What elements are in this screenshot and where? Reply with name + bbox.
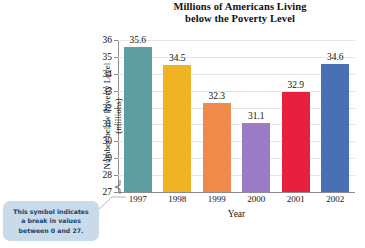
y-axis-title-line-1: Number below Poverty Level (102, 41, 113, 191)
bar-value-label: 32.9 (287, 80, 304, 90)
bar: 32.3 (203, 103, 231, 193)
bar: 35.6 (124, 47, 152, 192)
chart-title-line-1: Millions of Americans Living (118, 1, 362, 13)
gridline (118, 108, 355, 109)
bar-fill (163, 65, 191, 192)
callout-line-3: between 0 and 27. (13, 226, 88, 236)
bar: 34.6 (321, 64, 349, 192)
x-axis-tick-label: 1998 (157, 194, 197, 204)
x-axis-tick-label: 1999 (197, 194, 237, 204)
callout-line-1: This symbol indicates (13, 207, 88, 217)
gridline (118, 40, 355, 41)
gridline (118, 124, 355, 125)
y-axis-title: Number below Poverty Level (millions) (102, 41, 123, 191)
bar: 32.9 (282, 92, 310, 192)
gridline (118, 175, 355, 176)
gridline (118, 141, 355, 142)
bar: 34.5 (163, 65, 191, 192)
x-axis-title: Year (118, 209, 355, 219)
bar-value-label: 35.6 (129, 35, 146, 45)
bar-fill (124, 47, 152, 192)
poverty-level-bar-chart: Millions of Americans Living below the P… (0, 0, 365, 248)
bar-value-label: 34.5 (169, 53, 186, 63)
gridline (118, 91, 355, 92)
gridline (118, 74, 355, 75)
chart-title-line-2: below the Poverty Level (118, 13, 362, 25)
bar-fill (321, 64, 349, 192)
callout-line-2: a break in values (13, 216, 88, 226)
axis-break-icon (113, 180, 125, 194)
x-axis-tick-label: 2001 (276, 194, 316, 204)
bar-fill (282, 92, 310, 192)
axis-break-callout: This symbol indicates a break in values … (3, 201, 99, 241)
x-axis-line (118, 192, 355, 193)
chart-title: Millions of Americans Living below the P… (118, 1, 362, 24)
x-axis-tick-label: 1997 (118, 194, 158, 204)
bar: 31.1 (242, 123, 270, 192)
plot-area: 27282930313233343536 35.634.532.331.132.… (118, 40, 355, 192)
bar-value-label: 34.6 (327, 52, 344, 62)
bar-value-label: 32.3 (208, 91, 225, 101)
x-axis-tick-label: 2002 (315, 194, 355, 204)
bar-fill (242, 123, 270, 192)
axis-break-callout-text: This symbol indicates a break in values … (8, 207, 93, 236)
gridline (118, 158, 355, 159)
gridline (118, 57, 355, 58)
bar-fill (203, 103, 231, 193)
bar-value-label: 31.1 (248, 111, 265, 121)
x-axis-tick-label: 2000 (236, 194, 276, 204)
y-axis-title-line-2: (millions) (112, 41, 123, 191)
